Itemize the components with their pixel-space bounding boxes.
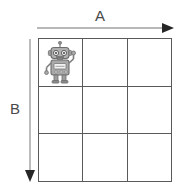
table-row: [39, 86, 172, 134]
figure-canvas: A B: [0, 0, 187, 196]
axis-label-b: B: [10, 101, 21, 116]
grid-cell-r3c1[interactable]: [39, 134, 83, 182]
robot-icon: [43, 41, 79, 85]
table-row: [39, 39, 172, 87]
vertical-axis-arrow: [22, 38, 38, 184]
table-row: [39, 134, 172, 182]
grid-cell-r2c3[interactable]: [127, 86, 171, 134]
grid-cell-r3c3[interactable]: [127, 134, 171, 182]
grid-cell-r1c3[interactable]: [127, 39, 171, 87]
grid-cell-r2c1[interactable]: [39, 86, 83, 134]
grid-cell-r2c2[interactable]: [83, 86, 127, 134]
grid-cell-r1c2[interactable]: [83, 39, 127, 87]
grid-cell-r3c2[interactable]: [83, 134, 127, 182]
robot-container: [39, 39, 82, 86]
grid-cell-r1c1[interactable]: [39, 39, 83, 87]
grid-3x3: [38, 38, 172, 182]
horizontal-axis-arrow: [36, 20, 176, 36]
grid-table: [38, 38, 172, 182]
